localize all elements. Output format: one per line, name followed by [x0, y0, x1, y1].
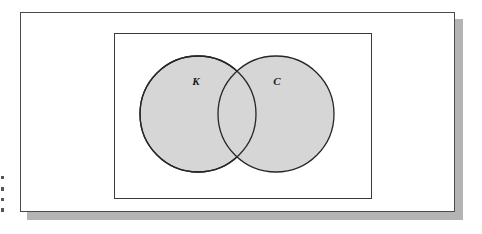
scan-mark: [1, 208, 4, 212]
universal-set-rectangle: [114, 33, 372, 199]
scan-edge-artifacts: [0, 176, 6, 218]
scan-mark: [1, 187, 4, 191]
scan-mark: [1, 176, 4, 179]
scan-mark: [1, 198, 4, 201]
figure-canvas: K C: [0, 0, 482, 234]
